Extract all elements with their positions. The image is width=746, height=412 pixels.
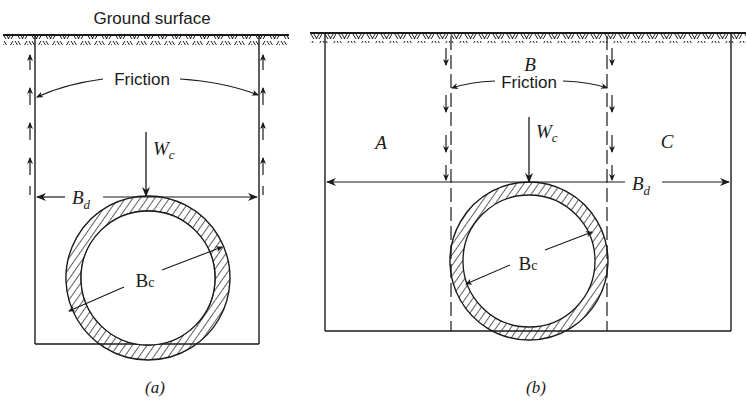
panel-b: B Friction A C Wc Bd Bc (b) (310, 33, 746, 397)
friction-label-b: Friction (501, 73, 557, 92)
load-label-a: Wc (153, 138, 175, 162)
load-arrow-b: Wc (529, 117, 558, 182)
ground-surface-a (3, 35, 289, 45)
trench-load-diagram: Ground surface Friction (0, 0, 746, 412)
panel-a: Ground surface Friction (3, 9, 289, 397)
prism-label-c-b: C (661, 131, 674, 152)
ground-surface-label: Ground surface (93, 9, 210, 28)
load-arrow-a: Wc (146, 132, 175, 196)
ground-surface-b (310, 33, 746, 43)
load-label-b: Wc (536, 121, 558, 145)
friction-label-a: Friction (114, 70, 170, 89)
friction-callout-a: Friction (37, 70, 258, 97)
caption-a: (a) (145, 378, 165, 397)
prism-label-a-b: A (373, 132, 387, 153)
friction-callout-b: Friction (452, 73, 607, 92)
prism-label-b: B (524, 54, 536, 75)
trench-width-label-b: Bd (632, 173, 651, 198)
trench-width-label-a: Bd (72, 187, 91, 212)
caption-b: (b) (526, 378, 546, 397)
